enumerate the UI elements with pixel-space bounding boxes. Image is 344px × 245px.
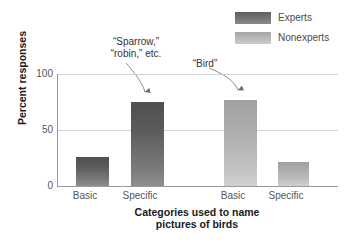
x-axis-title: Categories used to name pictures of bird… <box>57 206 337 230</box>
x-tick-specific-experts: Specific <box>109 190 171 201</box>
legend-label-nonexperts: Nonexperts <box>278 32 329 44</box>
bar-experts-basic <box>76 157 109 186</box>
annotation-bird-line1: “Bird” <box>180 58 230 70</box>
x-tick-specific-nonexperts: Specific <box>255 190 317 201</box>
y-tick-0: 0 <box>23 181 53 191</box>
annotation-sparrow-robin: “Sparrow,” “robin,” etc. <box>93 36 179 59</box>
x-axis-title-line1: Categories used to name <box>57 206 337 218</box>
x-tick-basic-nonexperts: Basic <box>203 190 263 201</box>
legend-label-experts: Experts <box>278 12 312 24</box>
chart-legend: Experts Nonexperts <box>235 10 339 50</box>
y-axis-title: Percent responses <box>16 13 28 143</box>
chart-figure: Experts Nonexperts “Sparrow,” “robin,” e… <box>0 0 344 245</box>
gridline-100 <box>58 74 338 75</box>
legend-item-nonexperts: Nonexperts <box>235 30 339 45</box>
annotation-sparrow-line2: “robin,” etc. <box>93 48 179 60</box>
annotation-bird: “Bird” <box>180 58 230 70</box>
legend-item-experts: Experts <box>235 10 339 25</box>
nonexperts-swatch-icon <box>235 32 271 44</box>
x-axis-title-line2: pictures of birds <box>57 218 337 230</box>
x-tick-basic-experts: Basic <box>55 190 115 201</box>
plot-area <box>57 74 338 187</box>
bar-experts-specific <box>131 102 164 186</box>
gridline-50 <box>58 130 338 131</box>
bar-nonexperts-basic <box>224 100 257 186</box>
bar-nonexperts-specific <box>278 162 309 186</box>
experts-swatch-icon <box>235 12 271 24</box>
annotation-sparrow-line1: “Sparrow,” <box>93 36 179 48</box>
